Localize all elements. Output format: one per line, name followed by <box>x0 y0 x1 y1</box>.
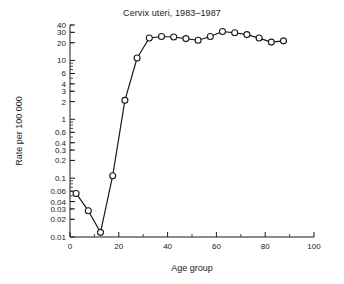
y-tick-label: 2 <box>62 98 67 107</box>
y-tick-label: 3 <box>62 87 67 96</box>
x-axis-label: Age group <box>171 263 213 273</box>
data-point-marker <box>122 97 128 103</box>
y-tick-label: 30 <box>57 28 66 37</box>
data-point-marker <box>207 34 213 40</box>
y-tick-label: 0.01 <box>50 233 66 242</box>
data-point-markers <box>73 29 286 236</box>
data-line-cervix-uteri <box>76 32 283 233</box>
y-axis-label: Rate per 100 000 <box>14 96 24 166</box>
y-tick-label: 0.2 <box>55 156 67 165</box>
data-point-marker <box>232 30 238 36</box>
y-tick-label: 0.6 <box>55 128 67 137</box>
x-tick-label: 100 <box>307 242 321 251</box>
data-point-marker <box>110 173 116 179</box>
data-point-marker <box>134 55 140 61</box>
data-point-marker <box>146 35 152 41</box>
data-point-marker <box>183 36 189 42</box>
y-tick-label: 20 <box>57 39 66 48</box>
data-point-marker <box>98 229 104 235</box>
y-tick-label: 0.3 <box>55 146 67 155</box>
x-tick-label: 20 <box>114 242 123 251</box>
data-point-marker <box>195 37 201 43</box>
y-tick-label: 0.1 <box>55 174 67 183</box>
data-point-marker <box>256 35 262 41</box>
x-tick-label: 40 <box>163 242 172 251</box>
chart-figure: Cervix uteri, 1983–1987 40302010643210.6… <box>0 0 344 284</box>
x-axis-ticks: 020406080100 <box>68 232 321 251</box>
y-tick-label: 10 <box>57 56 66 65</box>
y-tick-label: 1 <box>62 115 67 124</box>
data-point-marker <box>85 208 91 214</box>
data-point-marker <box>268 39 274 45</box>
data-point-marker <box>171 34 177 40</box>
x-tick-label: 60 <box>212 242 221 251</box>
x-tick-label: 80 <box>261 242 270 251</box>
y-tick-label: 0.02 <box>50 215 66 224</box>
data-point-marker <box>220 29 226 35</box>
y-tick-label: 0.03 <box>50 205 66 214</box>
x-tick-label: 0 <box>68 242 73 251</box>
data-point-marker <box>244 32 250 38</box>
data-point-marker <box>159 34 165 40</box>
y-tick-label: 6 <box>62 69 67 78</box>
line-chart-canvas: 40302010643210.60.40.30.20.10.060.040.03… <box>0 0 344 284</box>
data-point-marker <box>281 38 287 44</box>
data-point-marker <box>73 190 79 196</box>
plot-area: 40302010643210.60.40.30.20.10.060.040.03… <box>0 0 344 284</box>
y-tick-label: 0.06 <box>50 187 66 196</box>
